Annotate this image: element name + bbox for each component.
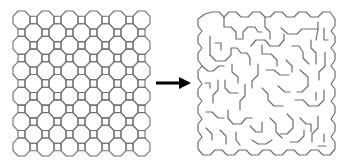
square-tile: [30, 16, 37, 23]
maze-wall: [213, 80, 218, 103]
octagon-tile: [61, 138, 78, 156]
square-tile: [54, 42, 61, 49]
square-tile: [126, 92, 133, 99]
maze-wall: [297, 70, 308, 92]
square-tile: [138, 105, 145, 112]
square-tile: [54, 67, 61, 74]
octagon-tile: [85, 138, 102, 156]
square-tile: [30, 118, 37, 125]
maze-wall: [210, 48, 250, 65]
square-tile: [138, 80, 145, 87]
maze-wall: [251, 34, 284, 46]
maze-wall: [312, 116, 318, 142]
square-tile: [78, 67, 85, 74]
maze-wall: [290, 130, 304, 142]
square-tile: [18, 131, 25, 138]
maze-wall: [292, 46, 309, 64]
maze-wall: [266, 70, 289, 75]
square-tile: [78, 143, 85, 150]
maze-wall: [324, 28, 328, 40]
octagon-tile: [109, 138, 126, 156]
square-tile: [102, 42, 109, 49]
square-tile: [90, 54, 97, 61]
maze-wall: [236, 132, 240, 145]
right-arrow-icon: [156, 77, 191, 89]
square-tile: [138, 54, 145, 61]
maze-wall: [278, 86, 290, 92]
square-tile: [42, 105, 49, 112]
square-tile: [126, 118, 133, 125]
maze-wall: [280, 114, 293, 134]
square-tile: [66, 80, 73, 87]
square-tile: [138, 29, 145, 36]
maze-wall: [270, 118, 282, 138]
maze-wall: [202, 66, 224, 71]
square-tile: [30, 92, 37, 99]
square-tile: [54, 92, 61, 99]
square-tile: [66, 131, 73, 138]
maze-wall: [205, 83, 210, 88]
maze-wall: [300, 118, 311, 132]
maze-wall: [224, 17, 262, 39]
square-tile: [18, 54, 25, 61]
maze-wall: [206, 128, 212, 140]
square-tile: [18, 29, 25, 36]
square-tile: [78, 42, 85, 49]
square-tile: [18, 80, 25, 87]
maze-wall: [232, 64, 238, 83]
square-tile: [30, 143, 37, 150]
square-tile: [90, 131, 97, 138]
square-tile: [42, 131, 49, 138]
square-tile: [54, 16, 61, 23]
square-tile: [114, 29, 121, 36]
square-tile: [90, 29, 97, 36]
square-tile: [102, 67, 109, 74]
maze-wall: [316, 22, 318, 40]
maze-wall: [252, 140, 272, 144]
square-tile: [30, 67, 37, 74]
maze-wall: [281, 28, 318, 34]
octagon-tile: [13, 138, 30, 156]
maze-wall: [240, 84, 245, 110]
square-tile: [66, 54, 73, 61]
square-tile: [66, 105, 73, 112]
square-tile: [78, 92, 85, 99]
square-tile: [54, 118, 61, 125]
square-tile: [18, 105, 25, 112]
square-tile: [90, 105, 97, 112]
maze-wall: [311, 40, 316, 64]
maze-wall: [265, 17, 270, 39]
square-tile: [114, 131, 121, 138]
figure: Octagon-square tiling grid transforms in…: [0, 0, 346, 167]
square-tile: [90, 80, 97, 87]
square-tile: [102, 92, 109, 99]
maze-wall: [319, 52, 325, 80]
square-tile: [126, 67, 133, 74]
arrow-head: [179, 77, 191, 89]
maze: [198, 12, 335, 155]
square-tile: [30, 42, 37, 49]
square-tile: [126, 143, 133, 150]
maze-wall: [228, 110, 252, 124]
square-tile: [54, 143, 61, 150]
square-tile: [114, 105, 121, 112]
maze-wall: [252, 64, 258, 88]
square-tile: [42, 54, 49, 61]
square-tile: [42, 29, 49, 36]
square-tile: [66, 29, 73, 36]
square-tile: [42, 80, 49, 87]
maze-wall: [262, 88, 283, 106]
octagon-tile: [37, 138, 54, 156]
square-tile: [126, 16, 133, 23]
maze-wall: [250, 122, 262, 132]
maze-wall: [206, 112, 224, 118]
square-tile: [126, 42, 133, 49]
square-tile: [114, 80, 121, 87]
square-tile: [102, 16, 109, 23]
square-tile: [78, 118, 85, 125]
maze-wall: [286, 60, 292, 72]
maze-wall: [215, 43, 221, 50]
square-tile: [114, 54, 121, 61]
maze-wall: [225, 80, 238, 93]
maze-wall: [262, 45, 277, 66]
